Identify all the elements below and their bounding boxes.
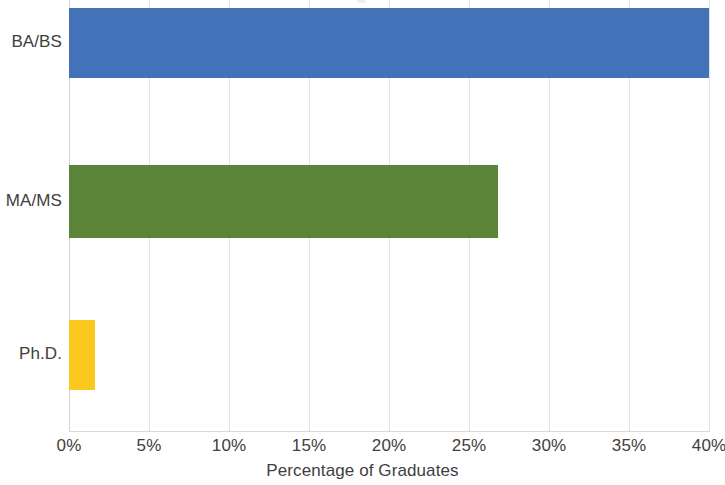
gridline-40 — [709, 0, 710, 432]
x-axis-tick-labels: 0% 5% 10% 15% 20% 25% 30% 35% 40% — [0, 436, 725, 462]
x-axis-title: Percentage of Graduates — [0, 461, 725, 481]
category-label-ba-bs: BA/BS — [11, 32, 62, 52]
bar-ph-d[interactable] — [69, 320, 95, 390]
bar-ma-ms[interactable] — [69, 165, 498, 238]
x-tick-5: 5% — [137, 436, 162, 456]
category-label-ph-d: Ph.D. — [19, 344, 62, 364]
x-tick-40: 40% — [692, 436, 725, 456]
x-tick-0: 0% — [57, 436, 82, 456]
x-tick-15: 15% — [292, 436, 326, 456]
x-axis-line — [69, 431, 710, 432]
category-axis-labels: BA/BS MA/MS Ph.D. — [0, 0, 63, 432]
bar-ba-bs[interactable] — [69, 8, 709, 78]
x-tick-35: 35% — [612, 436, 646, 456]
x-tick-25: 25% — [452, 436, 486, 456]
bar-chart: BA/BS MA/MS Ph.D. 0% 5% 10% 15% 20% 25% … — [0, 0, 725, 485]
x-tick-20: 20% — [372, 436, 406, 456]
x-tick-10: 10% — [212, 436, 246, 456]
category-label-ma-ms: MA/MS — [6, 191, 62, 211]
plot-area — [69, 0, 709, 432]
x-tick-30: 30% — [532, 436, 566, 456]
